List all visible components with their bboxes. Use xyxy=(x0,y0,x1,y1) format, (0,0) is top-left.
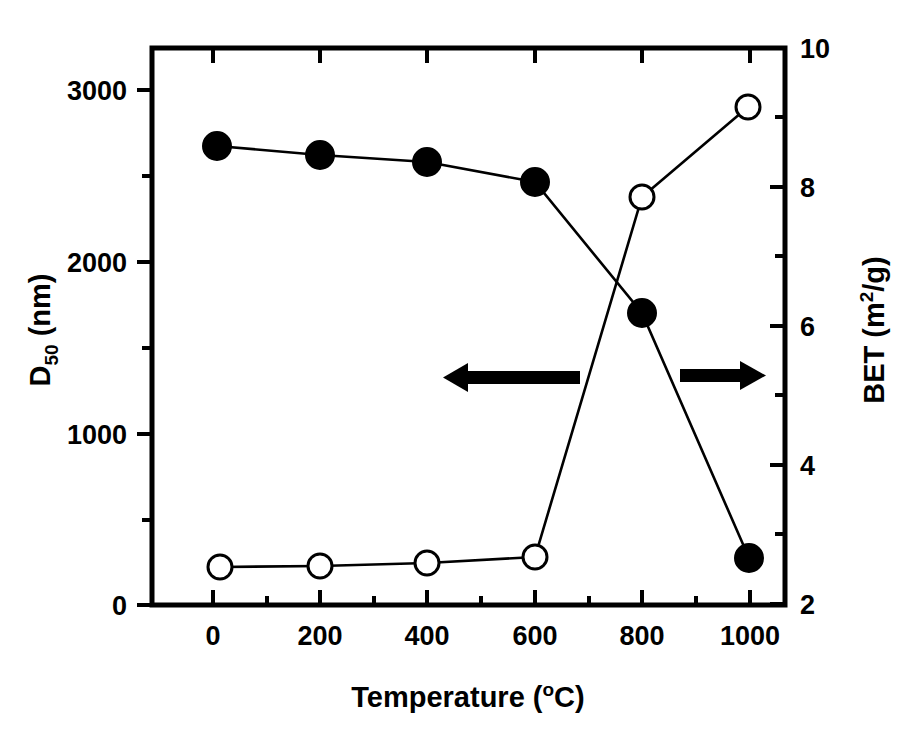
series-d50-point xyxy=(203,132,231,160)
y-axis-right-title: BET (m2/g) xyxy=(856,256,890,404)
y-right-tick-label-2: 2 xyxy=(800,590,815,620)
x-axis-title-tail: C) xyxy=(554,681,585,713)
y-left-tick-label-1000: 1000 xyxy=(67,420,127,450)
series-bet-point xyxy=(308,554,332,578)
y-left-tick-label-2000: 2000 xyxy=(67,248,127,278)
y-right-tick-label-4: 4 xyxy=(800,451,815,481)
series-d50-point xyxy=(306,141,334,169)
figure-container: 0 200 400 600 800 1000 Temperature (oC) … xyxy=(0,0,914,738)
y-left-tick-label-0: 0 xyxy=(112,591,127,621)
x-tick-label-600: 600 xyxy=(512,621,557,651)
x-tick-label-200: 200 xyxy=(297,621,342,651)
series-bet-point xyxy=(523,545,547,569)
y-left-title-sub: 50 xyxy=(41,344,62,365)
x-tick-label-400: 400 xyxy=(404,621,449,651)
x-tick-label-800: 800 xyxy=(619,621,664,651)
series-bet-point xyxy=(630,185,654,209)
svg-text:BET (m2/g): BET (m2/g) xyxy=(856,256,890,404)
series-d50-point xyxy=(413,148,441,176)
chart-svg: 0 200 400 600 800 1000 Temperature (oC) … xyxy=(0,0,914,738)
series-bet-point xyxy=(208,555,232,579)
y-left-title-tail: (nm) xyxy=(24,274,56,345)
y-left-tick-label-3000: 3000 xyxy=(67,76,127,106)
y-right-tick-label-10: 10 xyxy=(800,34,830,64)
x-axis-title-main: Temperature ( xyxy=(351,681,543,713)
x-axis-title-degree: o xyxy=(543,679,555,700)
series-bet-point xyxy=(415,551,439,575)
series-d50-point xyxy=(628,299,656,327)
x-tick-label-1000: 1000 xyxy=(720,621,780,651)
series-bet-point xyxy=(736,95,760,119)
y-left-title-main: D xyxy=(24,366,56,387)
y-right-title-tail: /g) xyxy=(858,256,890,291)
y-right-title-sup: 2 xyxy=(856,292,877,303)
y-right-title-main: BET (m xyxy=(858,302,890,404)
series-d50-point xyxy=(735,544,763,572)
x-tick-label-0: 0 xyxy=(205,621,220,651)
series-d50-point xyxy=(521,168,549,196)
y-right-tick-label-6: 6 xyxy=(800,312,815,342)
y-right-tick-label-8: 8 xyxy=(800,173,815,203)
